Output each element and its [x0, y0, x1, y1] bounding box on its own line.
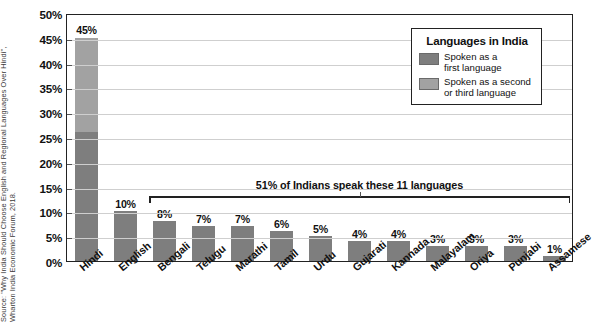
- y-axis-tick-label: 0%: [46, 256, 62, 269]
- y-axis-tick-label: 50%: [39, 8, 62, 21]
- source-note: Source: "Why India Should Choose English…: [0, 0, 21, 326]
- axis-tick-mark: [67, 189, 72, 190]
- y-axis-tick-label: 25%: [39, 132, 62, 145]
- legend-swatch-second-or-third-language: [419, 78, 439, 90]
- gridline: [67, 139, 572, 140]
- bar-segment-second-or-third-language: [75, 38, 98, 132]
- axis-tick-mark: [67, 65, 72, 66]
- y-axis-tick-label: 20%: [39, 156, 62, 169]
- legend-title: Languages in India: [419, 34, 535, 47]
- axis-tick-mark: [67, 213, 72, 214]
- source-note-text: Source: "Why India Should Choose English…: [0, 47, 17, 322]
- gridline: [67, 213, 572, 214]
- bar-slot[interactable]: 8%: [153, 15, 176, 261]
- axis-tick-mark: [67, 139, 72, 140]
- legend: Languages in India Spoken as a first lan…: [411, 28, 542, 105]
- axis-tick-mark: [67, 238, 72, 239]
- bar-slot[interactable]: 7%: [231, 15, 254, 261]
- y-axis-tick-label: 5%: [46, 231, 62, 244]
- bar-value-label: 45%: [76, 25, 97, 36]
- legend-item-first: Spoken as a first language: [419, 52, 535, 73]
- y-axis-tick-label: 30%: [39, 107, 62, 120]
- bracket-center-nub: [360, 192, 361, 197]
- bar-value-label: 7%: [196, 214, 211, 225]
- legend-label-second-or-third-language: Spoken as a second or third language: [444, 77, 531, 98]
- bar-slot[interactable]: 10%: [114, 15, 137, 261]
- legend-label-first-language: Spoken as a first language: [444, 52, 502, 73]
- axis-tick-mark: [67, 114, 72, 115]
- bar-value-label: 5%: [313, 224, 328, 235]
- gridline: [67, 114, 572, 115]
- y-axis-tick-label: 45%: [39, 32, 62, 45]
- annotation-text: 51% of Indians speak these 11 languages: [256, 179, 463, 191]
- y-axis-tick-label: 35%: [39, 82, 62, 95]
- axis-tick-mark: [67, 40, 72, 41]
- legend-swatch-first-language: [419, 53, 439, 65]
- bar-value-label: 10%: [115, 199, 136, 210]
- gridline: [67, 238, 572, 239]
- y-axis-tick-label: 15%: [39, 181, 62, 194]
- y-axis-tick-label: 40%: [39, 57, 62, 70]
- bar-slot[interactable]: 1%: [543, 15, 566, 261]
- bracket-cap-left: [149, 196, 151, 203]
- bar-slot[interactable]: 4%: [348, 15, 371, 261]
- y-axis: 0%5%10%15%20%25%30%35%40%45%50%: [22, 8, 64, 270]
- bracket-cap-right: [569, 196, 571, 203]
- bar-value-label: 7%: [235, 214, 250, 225]
- bar-segment-first-language: [75, 132, 98, 261]
- axis-tick-mark: [67, 164, 72, 165]
- legend-item-second: Spoken as a second or third language: [419, 77, 535, 98]
- bar-slot[interactable]: 4%: [387, 15, 410, 261]
- gridline: [67, 164, 572, 165]
- bar-value-label: 6%: [274, 219, 289, 230]
- bar-slot[interactable]: 45%: [75, 15, 98, 261]
- bar[interactable]: [75, 38, 98, 261]
- x-axis-labels: HindiEnglishBengaliTeluguMarathiTamilUrd…: [66, 264, 573, 326]
- y-axis-tick-label: 10%: [39, 206, 62, 219]
- bar-slot[interactable]: 7%: [192, 15, 215, 261]
- bar-slot[interactable]: 5%: [309, 15, 332, 261]
- axis-tick-mark: [67, 89, 72, 90]
- bar-slot[interactable]: 6%: [270, 15, 293, 261]
